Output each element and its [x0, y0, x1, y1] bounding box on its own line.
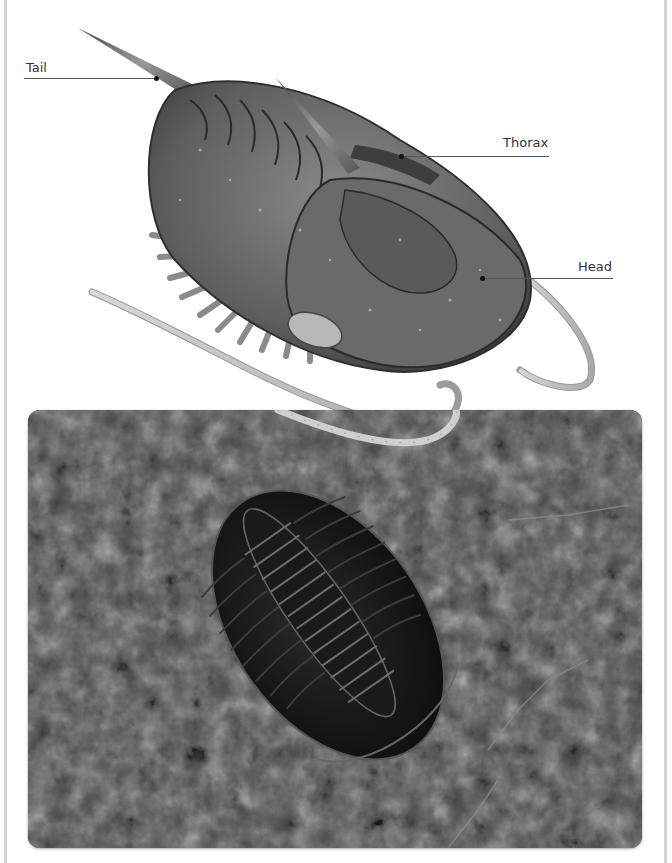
- label-thorax: Thorax: [503, 136, 548, 149]
- leader-line-head: [483, 278, 613, 279]
- label-head: Head: [578, 260, 612, 273]
- label-tail: Tail: [26, 61, 47, 74]
- leader-dot-head: [480, 276, 485, 281]
- trilobite-illustration: [0, 0, 672, 470]
- fossil-photo: [28, 410, 642, 848]
- leader-dot-tail: [154, 76, 159, 81]
- leader-dot-thorax: [399, 154, 404, 159]
- leader-line-thorax: [402, 156, 549, 157]
- tail-spine: [78, 28, 200, 96]
- leader-line-tail: [24, 78, 156, 79]
